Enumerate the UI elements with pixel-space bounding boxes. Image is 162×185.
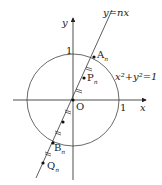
point-P [82,76,85,79]
diagram-svg [0,0,162,185]
x-axis-label: x [140,103,146,113]
label-B: Bn [54,143,65,155]
point-Q [41,161,44,164]
label-P: Pn [87,73,98,85]
circle-label: x²+y²=1 [115,72,157,82]
point-A [92,55,95,58]
tick-y-1: 1 [66,46,72,56]
point-mid [61,120,64,123]
y-axis-label: y [62,18,68,28]
label-Q: Qn [47,161,59,173]
tick-x-1: 1 [120,103,126,113]
label-A: An [97,50,108,62]
diagram: y x y=nx x²+y²=1 1 1 O An Pn Bn Qn [0,0,162,185]
origin-label: O [76,102,84,112]
line-label: y=nx [103,8,129,18]
point-O [71,98,74,101]
